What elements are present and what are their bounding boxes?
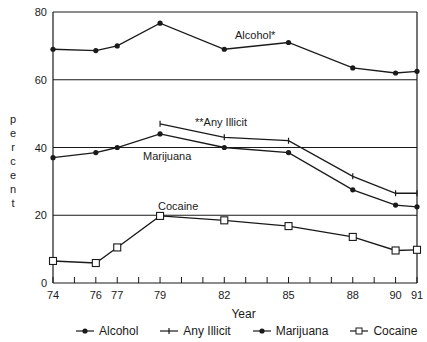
y-tick-label: 60 xyxy=(35,74,47,86)
open-square-marker-icon xyxy=(350,327,368,335)
data-point xyxy=(157,21,162,26)
legend-label: Cocaine xyxy=(373,324,417,338)
data-point xyxy=(393,70,398,75)
data-point xyxy=(350,65,355,70)
legend-item-cocaine: Cocaine xyxy=(350,324,417,338)
y-axis-label-letter: n xyxy=(8,183,18,196)
data-point xyxy=(392,247,399,254)
series-marijuana xyxy=(50,131,419,209)
y-tick-label: 40 xyxy=(35,142,47,154)
y-tick-label: 80 xyxy=(35,6,47,18)
data-point xyxy=(414,246,421,253)
data-point xyxy=(115,145,120,150)
annotation-cocaine: Cocaine xyxy=(158,200,198,212)
data-point xyxy=(93,150,98,155)
y-tick-label: 20 xyxy=(35,209,47,221)
legend-item-marijuana: Marijuana xyxy=(253,324,329,338)
plus-marker-icon xyxy=(160,327,178,335)
y-axis-label-letter: e xyxy=(8,169,18,182)
x-tick-label: 76 xyxy=(90,289,102,301)
filled-dot-marker-icon xyxy=(76,327,94,335)
legend-label: Alcohol xyxy=(99,324,138,338)
x-axis-label: Year xyxy=(0,307,427,321)
data-point xyxy=(286,150,291,155)
data-point xyxy=(157,212,164,219)
line-chart: 020406080747677798285889091 Alcohol* **A… xyxy=(0,0,427,342)
series-lines xyxy=(50,21,421,267)
x-tick-label: 91 xyxy=(411,289,423,301)
data-point xyxy=(50,155,55,160)
data-point xyxy=(221,217,228,224)
legend-item-alcohol: Alcohol xyxy=(76,324,138,338)
x-tick-label: 85 xyxy=(282,289,294,301)
filled-dot-marker-icon xyxy=(253,327,271,335)
data-point xyxy=(222,145,227,150)
data-point xyxy=(414,204,419,209)
x-tick-label: 79 xyxy=(154,289,166,301)
data-point xyxy=(286,40,291,45)
y-axis-label-letter: p xyxy=(8,113,18,126)
x-tick-label: 77 xyxy=(111,289,123,301)
annotations: Alcohol* **Any Illicit Marijuana Cocaine xyxy=(143,29,276,212)
y-axis-label-letter: r xyxy=(8,141,18,154)
x-tick-label: 74 xyxy=(47,289,59,301)
data-point xyxy=(222,47,227,52)
annotation-marijuana: Marijuana xyxy=(143,150,192,162)
data-point xyxy=(115,43,120,48)
data-point xyxy=(414,69,419,74)
data-point xyxy=(157,131,162,136)
data-point xyxy=(393,202,398,207)
data-point xyxy=(350,187,355,192)
data-point xyxy=(92,260,99,267)
gridlines xyxy=(53,12,417,215)
data-point xyxy=(50,257,57,264)
legend-label: Any Illicit xyxy=(183,324,230,338)
data-point xyxy=(114,244,121,251)
legend-item-any-illicit: Any Illicit xyxy=(160,324,230,338)
y-axis-label-letter: e xyxy=(8,127,18,140)
x-tick-label: 90 xyxy=(389,289,401,301)
legend-label: Marijuana xyxy=(276,324,329,338)
annotation-alcohol: Alcohol* xyxy=(235,29,276,41)
data-point xyxy=(50,47,55,52)
annotation-any-illicit: **Any Illicit xyxy=(195,116,247,128)
y-axis-label-letter: t xyxy=(8,197,18,210)
x-tick-label: 82 xyxy=(218,289,230,301)
data-point xyxy=(285,223,292,230)
legend: Alcohol Any Illicit Marijuana Cocaine xyxy=(76,324,417,338)
series-any-illicit xyxy=(160,121,417,196)
y-tick-label: 0 xyxy=(41,277,47,289)
data-point xyxy=(93,48,98,53)
x-tick-label: 88 xyxy=(347,289,359,301)
series-cocaine xyxy=(50,212,421,266)
y-axis-label-letter: c xyxy=(8,155,18,168)
data-point xyxy=(349,233,356,240)
